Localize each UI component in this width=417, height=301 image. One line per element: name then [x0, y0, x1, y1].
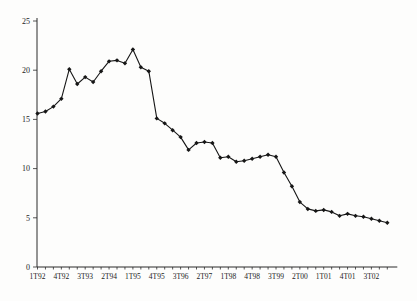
data-point: [369, 217, 373, 221]
x-axis-tick-label: 4T95: [149, 272, 165, 281]
data-point: [361, 215, 365, 219]
x-axis-tick-label: 2T97: [197, 272, 213, 281]
data-line: [38, 50, 388, 223]
data-point: [377, 219, 381, 223]
x-axis-tick-label: 1T95: [125, 272, 141, 281]
data-point: [385, 221, 389, 225]
data-point: [314, 209, 318, 213]
y-axis-tick-label: 10: [22, 164, 30, 173]
line-chart-canvas: 05101520251T924T923T932T941T954T953T962T…: [0, 0, 417, 301]
chart-figure: 05101520251T924T923T932T941T954T953T962T…: [0, 0, 417, 301]
data-point: [250, 157, 254, 161]
data-point: [210, 141, 214, 145]
x-axis-tick-label: 4T92: [53, 272, 69, 281]
data-point: [242, 159, 246, 163]
data-point: [147, 69, 151, 73]
data-point: [139, 65, 143, 69]
y-axis-tick-label: 25: [22, 17, 30, 26]
x-axis-tick-label: 2T94: [101, 272, 117, 281]
data-point: [329, 210, 333, 214]
x-axis-tick-label: 3T02: [363, 272, 379, 281]
x-axis-tick-label: 3T93: [77, 272, 93, 281]
data-point: [258, 155, 262, 159]
data-point: [345, 212, 349, 216]
x-axis-tick-label: 1T98: [220, 272, 236, 281]
data-point: [202, 140, 206, 144]
data-point: [274, 155, 278, 159]
x-axis-tick-label: 4T01: [340, 272, 356, 281]
data-point: [35, 111, 39, 115]
data-point: [131, 47, 135, 51]
data-point: [218, 156, 222, 160]
x-axis-tick-label: 4T98: [244, 272, 260, 281]
y-axis-tick-label: 0: [26, 263, 30, 272]
data-point: [337, 214, 341, 218]
data-point: [290, 184, 294, 188]
y-axis-tick-label: 5: [26, 214, 30, 223]
data-point: [322, 208, 326, 212]
data-point: [115, 58, 119, 62]
x-axis-tick-label: 1T01: [316, 272, 332, 281]
data-point: [266, 153, 270, 157]
x-axis-tick-label: 2T00: [292, 272, 308, 281]
data-point: [67, 67, 71, 71]
y-axis-tick-label: 15: [22, 115, 30, 124]
x-axis-tick-label: 1T92: [30, 272, 46, 281]
x-axis-tick-label: 3T99: [268, 272, 284, 281]
y-axis-tick-label: 20: [22, 66, 30, 75]
data-point: [353, 214, 357, 218]
x-axis-tick-label: 3T96: [173, 272, 189, 281]
